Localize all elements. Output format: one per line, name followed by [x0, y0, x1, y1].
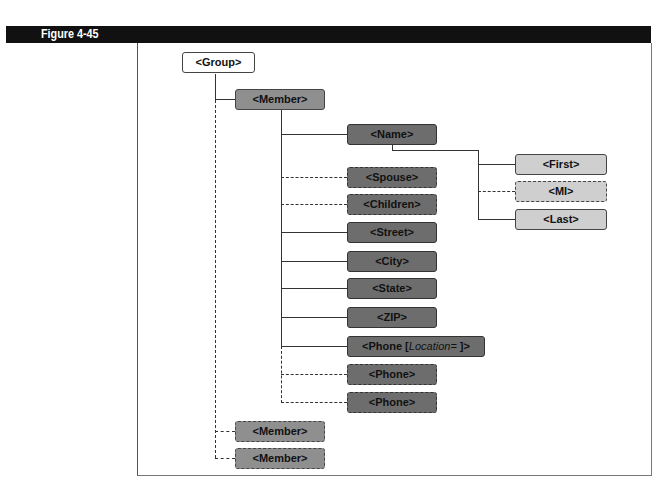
connector-group-member: [215, 99, 235, 100]
node-member-2: <Member>: [235, 421, 325, 442]
connector-phone-3: [281, 402, 347, 403]
connector-mi: [478, 191, 515, 192]
connector-member-trunk: [281, 110, 282, 346]
connector-city: [281, 261, 347, 262]
connector-name-across: [392, 150, 478, 151]
connector-group-trunk: [215, 74, 216, 100]
node-phone-location: <Phone [Location= ]>: [347, 336, 485, 357]
connector-name-trunk: [478, 150, 479, 219]
node-phone-3: <Phone>: [347, 392, 437, 413]
connector-group-trunk-optional: [215, 100, 216, 458]
node-member-3: <Member>: [235, 448, 325, 469]
node-city: <City>: [347, 251, 437, 272]
connector-state: [281, 288, 347, 289]
connector-spouse: [281, 177, 347, 178]
node-first: <First>: [515, 154, 607, 175]
node-street: <Street>: [347, 222, 437, 243]
figure-label: Figure 4-45: [41, 26, 99, 43]
connector-phone-location: [281, 346, 347, 347]
node-name: <Name>: [347, 124, 437, 145]
connector-phone-2: [281, 374, 347, 375]
node-children: <Children>: [347, 194, 437, 215]
connector-name: [281, 134, 347, 135]
phone-label-suffix: ]>: [457, 340, 470, 352]
node-member: <Member>: [235, 89, 325, 110]
connector-group-member-2: [215, 431, 235, 432]
node-state: <State>: [347, 278, 437, 299]
node-group: <Group>: [182, 52, 255, 73]
node-zip: <ZIP>: [347, 307, 437, 328]
connector-zip: [281, 317, 347, 318]
figure-title-bar: Figure 4-45: [6, 26, 651, 43]
phone-label-attribute: Location=: [409, 340, 457, 352]
node-mi: <MI>: [515, 181, 607, 202]
connector-street: [281, 232, 347, 233]
node-spouse: <Spouse>: [347, 167, 437, 188]
node-phone-2: <Phone>: [347, 364, 437, 385]
connector-children: [281, 204, 347, 205]
phone-label-prefix: <Phone [: [362, 340, 409, 352]
connector-last: [478, 219, 515, 220]
connector-group-member-3: [215, 458, 235, 459]
connector-first: [478, 164, 515, 165]
node-last: <Last>: [515, 209, 607, 230]
